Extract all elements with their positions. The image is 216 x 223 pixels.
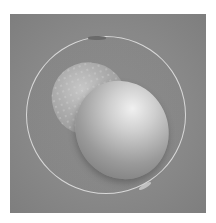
zona-debris (88, 36, 106, 40)
micrograph-panel (10, 14, 206, 213)
